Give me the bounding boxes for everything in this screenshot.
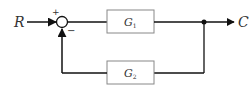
plus-sign: + xyxy=(52,7,60,17)
input-label-r: R xyxy=(13,14,25,30)
block-g2: G2 xyxy=(107,61,154,84)
block-g1: G1 xyxy=(107,10,154,33)
minus-sign: − xyxy=(67,25,75,36)
block-diagram: R + − G1 C G2 xyxy=(0,0,251,93)
summing-junction xyxy=(57,17,68,28)
output-label-c: C xyxy=(238,14,249,30)
